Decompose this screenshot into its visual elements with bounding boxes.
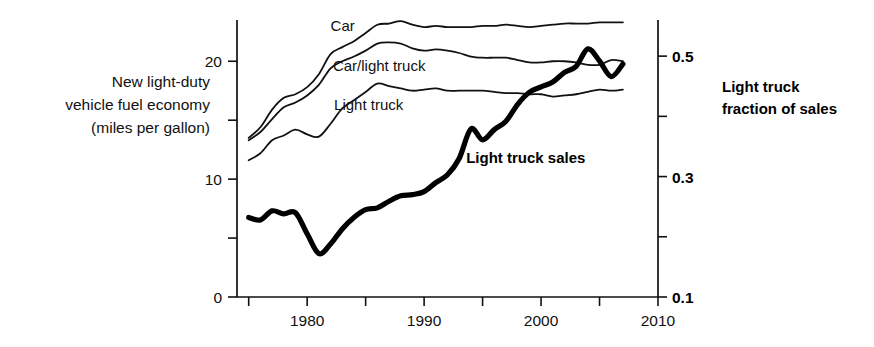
left-axis-title: New light-duty vehicle fuel economy (mil… [20, 70, 210, 139]
y2-axis-tick-label: 0.3 [672, 169, 694, 186]
y-axis-tick-label: 20 [205, 53, 223, 70]
x-axis-tick-label: 1980 [290, 312, 325, 329]
left-axis-title-line-2: vehicle fuel economy [20, 93, 210, 116]
axis-spine-left-bottom [237, 20, 658, 297]
x-axis-tick-label: 1990 [407, 312, 442, 329]
x-axis-tick-label: 2010 [641, 312, 676, 329]
curve-label-light-truck-sales: Light truck sales [466, 149, 585, 166]
curve-label-light-truck: Light truck [334, 96, 404, 113]
series-line-car [249, 21, 623, 138]
right-axis-title: Light truck fraction of sales [722, 76, 872, 120]
series-line-car-light-truck [249, 42, 623, 140]
right-axis-title-line-2: fraction of sales [722, 98, 872, 120]
left-axis-title-line-3: (miles per gallon) [20, 116, 210, 139]
chart-figure: New light-duty vehicle fuel economy (mil… [0, 0, 874, 347]
y2-axis-tick-label: 0.1 [672, 289, 694, 306]
left-axis-title-line-1: New light-duty [20, 70, 210, 93]
y2-axis-tick-label: 0.5 [672, 48, 694, 65]
y-axis-tick-label: 0 [213, 289, 222, 306]
plot-area: 010200.10.30.51980199020002010 CarCar/li… [0, 0, 874, 347]
curve-label-car-light-truck: Car/light truck [333, 57, 426, 74]
series-layer [249, 21, 623, 254]
y-axis-tick-label: 10 [205, 171, 223, 188]
right-axis-title-line-1: Light truck [722, 76, 872, 98]
curve-label-car: Car [331, 17, 355, 34]
x-axis-tick-label: 2000 [524, 312, 559, 329]
